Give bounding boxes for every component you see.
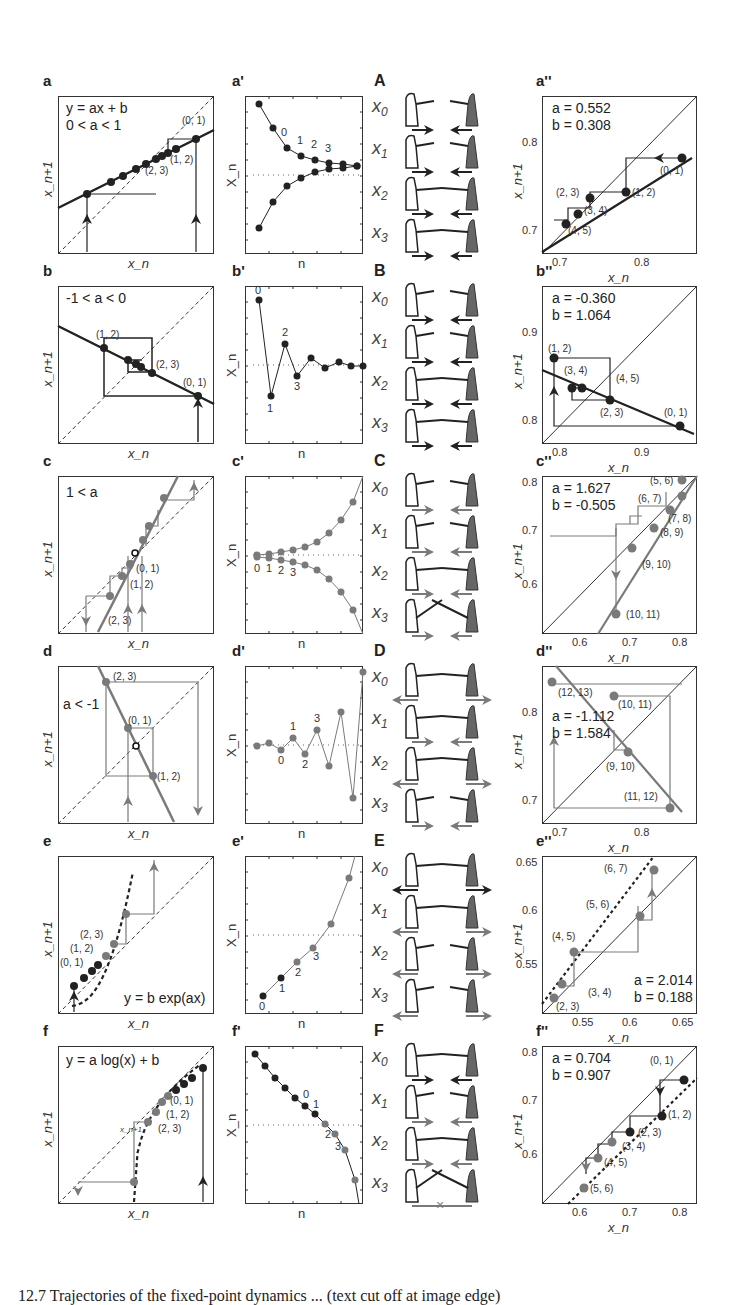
svg-text:(9, 10): (9, 10): [606, 761, 635, 772]
param-b-label: b = 1.584: [552, 725, 611, 742]
svg-text:3: 3: [294, 380, 300, 392]
x-axis-label: x_n: [608, 1220, 629, 1235]
x-tick-label: 0.8: [672, 636, 687, 648]
panel-label-fit: e'': [536, 832, 551, 849]
svg-text:1: 1: [290, 720, 296, 732]
panel-label-timeseries: a': [232, 72, 244, 89]
cobweb-plot: (2, 3)(0, 1)(1, 2): [58, 666, 214, 824]
svg-text:(2, 3): (2, 3): [156, 359, 179, 370]
x-axis-label: x_n: [608, 1030, 629, 1045]
y-tick-label: 0.6: [522, 904, 537, 916]
svg-text:x1: x1: [371, 708, 388, 731]
svg-text:(1, 2): (1, 2): [548, 343, 571, 354]
condition-label: 1 < a: [66, 484, 98, 501]
x-tick-label: 0.6: [572, 636, 587, 648]
fit-plot: (12, 13)(10, 11)(9, 10)(11, 12): [542, 666, 697, 824]
panel-label-schematic: E: [374, 832, 385, 850]
param-a-label: a = -0.360: [552, 290, 615, 307]
x-axis-label: n: [298, 256, 305, 271]
svg-text:(1, 2): (1, 2): [70, 943, 93, 954]
interaction-schematic: x0x1x2x3: [372, 660, 502, 836]
y-axis-label: x_n+1: [40, 731, 55, 767]
svg-text:x2: x2: [371, 560, 388, 583]
x-tick-label: 0.6: [622, 1016, 637, 1028]
svg-text:x1: x1: [371, 328, 388, 351]
svg-text:(10, 11): (10, 11): [618, 699, 652, 710]
svg-text:(1, 2): (1, 2): [170, 154, 193, 165]
panel-label-cobweb: c: [43, 452, 51, 469]
panel-label-cobweb: b: [43, 262, 52, 279]
y-tick-label: 0.7: [522, 794, 537, 806]
svg-text:0: 0: [281, 126, 287, 138]
x-tick-label: 0.8: [634, 826, 649, 838]
svg-text:(12, 13): (12, 13): [558, 687, 592, 698]
condition-label: -1 < a < 0: [66, 290, 126, 307]
svg-text:3: 3: [290, 566, 296, 578]
y-axis-label: X_n: [224, 734, 239, 757]
y-tick-label: 0.55: [516, 958, 537, 970]
x-tick-label: 0.7: [622, 1206, 637, 1218]
x-tick-label: 0.7: [622, 636, 637, 648]
svg-text:(3, 4): (3, 4): [584, 205, 607, 216]
svg-text:x1: x1: [371, 518, 388, 541]
x-tick-label: 0.65: [672, 1016, 693, 1028]
svg-text:(2, 3): (2, 3): [145, 165, 168, 176]
param-b-label: b = 1.064: [552, 307, 611, 324]
figure-caption: 12.7 Trajectories of the fixed-point dyn…: [18, 1287, 500, 1305]
svg-text:x2: x2: [371, 750, 388, 773]
y-tick-label: 0.8: [522, 1046, 537, 1058]
svg-text:(7, 8): (7, 8): [668, 513, 691, 524]
y-tick-label: 0.7: [522, 1094, 537, 1106]
y-tick-label: 0.8: [522, 414, 537, 426]
condition-label: a < -1: [63, 696, 99, 713]
svg-text:(2, 3): (2, 3): [108, 615, 131, 626]
y-axis-label: x_n+1: [40, 161, 55, 197]
y-tick-label: 0.9: [522, 326, 537, 338]
svg-text:2: 2: [282, 326, 288, 338]
panel-label-fit: f'': [536, 1022, 548, 1039]
svg-text:(6, 7): (6, 7): [638, 493, 661, 504]
svg-text:×: ×: [436, 1197, 444, 1213]
panel-label-timeseries: b': [232, 262, 245, 279]
y-axis-label: x_n+1: [510, 733, 525, 769]
panel-label-schematic: F: [374, 1022, 384, 1040]
svg-text:(2, 3): (2, 3): [600, 407, 623, 418]
x-axis-label: x_n: [608, 460, 629, 475]
svg-text:(1, 2): (1, 2): [632, 187, 655, 198]
svg-text:(3, 4): (3, 4): [564, 365, 587, 376]
y-axis-label: X_n: [224, 354, 239, 377]
svg-text:(3, 4): (3, 4): [588, 987, 611, 998]
x-axis-label: n: [298, 1016, 305, 1031]
svg-text:1: 1: [297, 134, 303, 146]
param-a-label: a = 0.552: [552, 100, 611, 117]
svg-text:x3: x3: [371, 792, 388, 815]
svg-text:(1, 2): (1, 2): [130, 579, 153, 590]
svg-text:(0, 1): (0, 1): [60, 957, 83, 968]
x-tick-label: 0.7: [552, 826, 567, 838]
svg-text:x0: x0: [371, 666, 388, 689]
y-axis-label: X_n: [224, 924, 239, 947]
condition-label: 0 < a < 1: [66, 117, 121, 134]
svg-text:x2: x2: [371, 180, 388, 203]
x-tick-label: 0.9: [634, 446, 649, 458]
svg-text:(5, 6): (5, 6): [650, 475, 673, 486]
panel-label-fit: b'': [536, 262, 552, 279]
svg-text:1: 1: [267, 402, 273, 414]
x-tick-label: 0.8: [634, 256, 649, 268]
param-b-label: b = -0.505: [552, 497, 615, 514]
svg-text:3: 3: [325, 142, 331, 154]
svg-text:(2, 3): (2, 3): [556, 187, 579, 198]
x-axis-label: x_n: [128, 636, 149, 651]
interaction-schematic: x0x1x2x3: [372, 470, 502, 646]
svg-text:x0: x0: [371, 96, 388, 119]
svg-text:3: 3: [313, 950, 319, 962]
svg-text:x0: x0: [371, 856, 388, 879]
panel-label-cobweb: d: [43, 642, 52, 659]
svg-text:1: 1: [313, 1098, 319, 1110]
x-axis-label: x_n: [608, 650, 629, 665]
x-axis-label: x_n: [128, 826, 149, 841]
svg-text:x3: x3: [371, 602, 388, 625]
x-axis-label: x_n: [128, 1206, 149, 1221]
svg-text:(1, 2): (1, 2): [166, 1109, 189, 1120]
svg-text:(4, 5): (4, 5): [616, 373, 639, 384]
